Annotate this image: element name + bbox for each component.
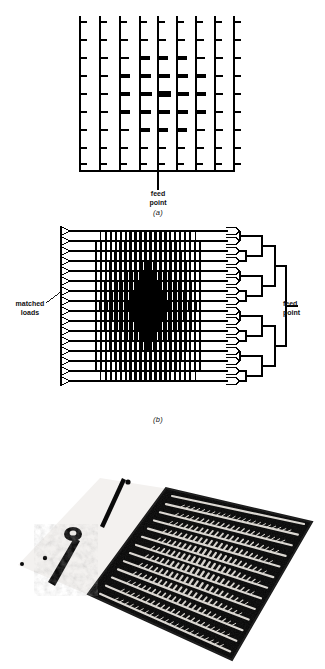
radiating-stub — [144, 351, 148, 361]
radiating-stub — [215, 129, 223, 131]
radiating-stub — [199, 251, 200, 261]
radiating-stub — [129, 261, 133, 271]
radiating-stub — [139, 241, 142, 251]
radiating-stub — [154, 231, 157, 241]
radiating-stub — [95, 291, 97, 301]
radiating-stub — [178, 311, 182, 321]
radiating-stub — [124, 361, 127, 371]
radiating-stub — [159, 241, 162, 251]
radiating-stub — [194, 361, 196, 371]
travelling-wave-line-overlay-8 — [70, 310, 228, 313]
radiating-stub — [140, 92, 152, 96]
radiating-stub — [184, 241, 186, 251]
travelling-wave-line-overlay-6 — [70, 290, 228, 293]
radiating-stub — [100, 361, 102, 371]
radiating-stub — [109, 341, 112, 351]
radiating-stub — [215, 93, 223, 95]
radiating-stub — [119, 241, 122, 251]
radiating-stub — [178, 281, 181, 291]
radiating-stub — [158, 74, 170, 78]
radiating-stub — [149, 361, 152, 371]
radiating-stub — [80, 21, 87, 22]
radiating-stub — [133, 301, 138, 311]
figure-b-feed-point-label: feed point — [283, 300, 323, 317]
radiating-stub — [174, 341, 177, 351]
radiating-stub — [80, 93, 87, 94]
radiating-stub — [104, 281, 107, 291]
radiating-stub — [119, 331, 122, 341]
radiating-stub — [110, 241, 112, 251]
feed-junction-s1-1 — [240, 251, 246, 261]
matched-load-triangle-11 — [61, 337, 70, 346]
radiating-stub — [158, 271, 162, 281]
feed-junction-s1-3 — [240, 291, 246, 301]
radiating-stub — [105, 331, 108, 341]
radiating-stub — [100, 321, 103, 331]
radiating-stub — [129, 281, 133, 291]
radiating-stub — [196, 21, 203, 22]
radiating-stub — [144, 261, 148, 271]
radiating-stub — [168, 271, 172, 281]
feed-junction-s3-0 — [262, 246, 275, 286]
radiating-stub — [148, 341, 152, 351]
figure-a-series-fed-comb-array — [0, 0, 325, 200]
radiating-stub — [109, 281, 112, 291]
radiating-stub — [194, 281, 197, 291]
matched-load-triangle-1 — [61, 237, 70, 246]
radiating-stub — [100, 75, 108, 77]
figure-c-photograph — [0, 430, 325, 669]
radiating-stub — [129, 231, 131, 241]
radiating-stub — [194, 311, 197, 321]
radiating-stub — [196, 57, 205, 60]
radiating-stub — [95, 361, 96, 371]
radiating-stub — [140, 147, 148, 149]
radiating-stub — [119, 341, 122, 351]
feed-taper-14 — [226, 368, 240, 374]
radiating-stub — [159, 361, 162, 371]
feed-taper-12 — [226, 348, 240, 354]
radiating-stub — [173, 311, 177, 321]
radiating-stub — [134, 271, 138, 281]
radiating-stub — [168, 321, 172, 331]
solder-smudge — [40, 530, 92, 590]
radiating-stub — [177, 110, 188, 114]
radiating-stub — [149, 351, 153, 361]
radiating-stub — [124, 301, 128, 311]
radiating-stub — [164, 351, 167, 361]
radiating-stub — [144, 241, 147, 251]
radiating-stub — [119, 281, 123, 291]
radiating-stub — [105, 241, 107, 251]
radiating-stub — [159, 341, 163, 351]
radiating-stub — [100, 291, 103, 301]
radiating-stub — [194, 251, 196, 261]
radiating-stub — [138, 311, 143, 321]
radiating-stub — [129, 241, 132, 251]
radiating-stub — [144, 231, 147, 241]
radiating-stub — [163, 311, 167, 321]
radiating-stub — [139, 341, 143, 351]
radiating-stub — [189, 331, 192, 341]
travelling-wave-line-overlay-1 — [70, 240, 228, 243]
radiating-stub — [184, 341, 187, 351]
radiating-stub — [174, 361, 177, 371]
matched-load-triangle-4 — [61, 267, 70, 276]
radiating-stub — [114, 311, 118, 321]
radiating-stub — [139, 271, 143, 281]
radiating-stub-edge — [234, 93, 240, 95]
radiating-stub — [154, 251, 158, 261]
radiating-stub — [184, 351, 186, 361]
radiating-stub — [129, 291, 133, 301]
radiating-stub — [119, 251, 122, 261]
radiating-stub — [169, 241, 172, 251]
radiating-stub — [95, 341, 97, 351]
radiating-stub — [134, 261, 138, 271]
radiating-stub — [80, 147, 87, 148]
radiating-stub — [109, 291, 112, 301]
radiating-stub — [178, 301, 182, 311]
radiating-stub — [215, 21, 222, 22]
radiating-stub — [100, 111, 108, 113]
radiating-stub — [109, 261, 112, 271]
feed-junction-s1-7 — [240, 371, 246, 381]
radiating-stub — [115, 371, 117, 381]
radiating-stub — [100, 93, 108, 95]
